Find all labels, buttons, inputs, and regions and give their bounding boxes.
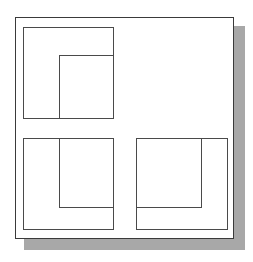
inner-square-bottom-right: [59, 55, 114, 119]
panel-top-left: [23, 27, 114, 119]
panel-bottom-left: [23, 138, 114, 230]
panel-bottom-right: [136, 138, 228, 230]
inner-square-top-left: [136, 138, 202, 208]
inner-square-top-right: [59, 138, 114, 208]
